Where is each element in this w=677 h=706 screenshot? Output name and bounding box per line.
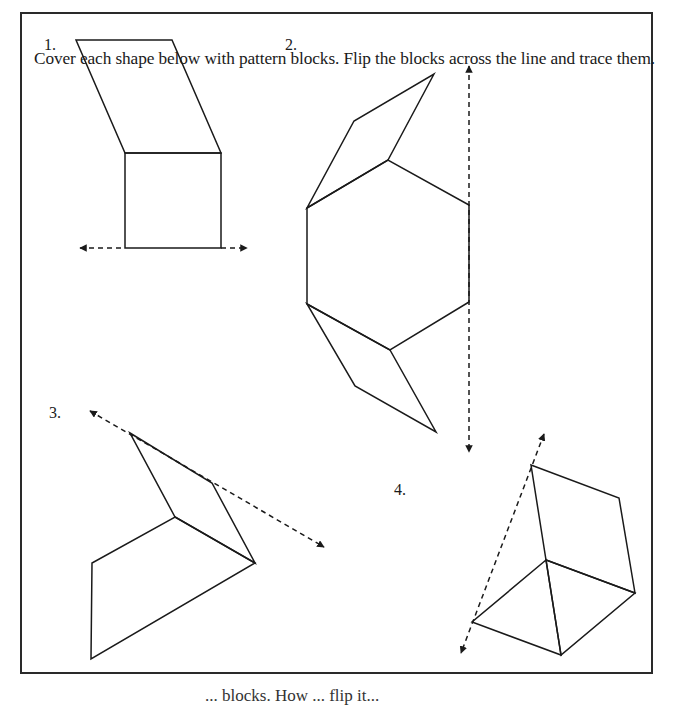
square-shape (125, 153, 221, 248)
problem-1-figure (76, 40, 247, 248)
problem-2-figure (307, 66, 469, 452)
triangle-shape (546, 560, 635, 655)
rhombus-shape (76, 40, 221, 153)
trapezoid-shape (91, 517, 255, 659)
rhombus-shape (307, 304, 436, 432)
hexagon-shape (307, 160, 469, 350)
problem-3-figure (90, 411, 324, 659)
footer-partial-text: ... blocks. How ... flip it... (205, 686, 379, 706)
problem-4-figure (461, 434, 635, 655)
rhombus-shape (307, 74, 434, 208)
rhombus-shape (130, 433, 255, 563)
reflection-line-arrow (90, 411, 324, 547)
